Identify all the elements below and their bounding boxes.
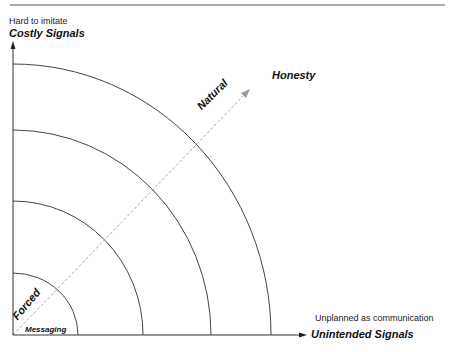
x-axis-arrow-icon: [299, 333, 307, 338]
honesty-label: Honesty: [272, 69, 315, 81]
y-axis-subtitle: Hard to imitate: [9, 16, 68, 26]
x-axis-subtitle: Unplanned as communication: [315, 313, 434, 323]
y-axis-arrow-icon: [11, 41, 16, 49]
messaging-label: Messaging: [25, 325, 66, 334]
y-axis-title: Costly Signals: [9, 27, 85, 39]
arc-2: [13, 201, 143, 335]
diagonal-dashed-line: [13, 94, 245, 335]
x-axis-title: Unintended Signals: [311, 328, 414, 340]
diagram-canvas: [0, 0, 457, 352]
